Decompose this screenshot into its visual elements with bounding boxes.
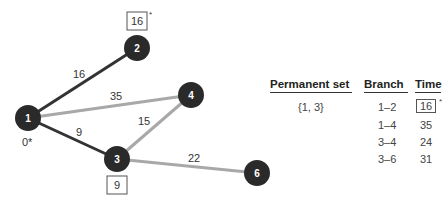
row-2-branch: 1–4	[378, 119, 396, 131]
edge-1-2	[28, 48, 137, 118]
edge-1-3	[28, 118, 117, 159]
weight-3-4: 15	[138, 115, 150, 127]
node-3-time: 9	[114, 179, 120, 191]
node-1: 1	[15, 105, 41, 131]
header-time: Time	[415, 78, 441, 93]
node-2-label: 2	[134, 43, 140, 54]
edge-3-6	[117, 159, 257, 173]
weight-1-4: 35	[110, 90, 122, 102]
weight-1-2: 16	[73, 68, 85, 80]
row-3-branch: 3–4	[378, 136, 396, 148]
weight-3-6: 22	[188, 152, 200, 164]
row-4-branch: 3–6	[378, 153, 396, 165]
header-branch: Branch	[364, 78, 408, 93]
node-4: 4	[178, 82, 204, 108]
weight-1-3: 9	[76, 126, 82, 138]
node-2-time: 16	[131, 15, 143, 27]
node-4-label: 4	[188, 90, 194, 101]
row-4-time: 31	[420, 153, 432, 165]
node-3-label: 3	[114, 154, 120, 165]
node-1-time: 0*	[22, 136, 33, 148]
row-2-time: 35	[420, 119, 432, 131]
row-3-time: 24	[420, 136, 432, 148]
node-6-label: 6	[254, 168, 260, 179]
node-2: 2	[124, 35, 150, 61]
node-2-star: *	[149, 10, 152, 19]
header-permanent-set: Permanent set	[270, 78, 352, 93]
node-6: 6	[244, 160, 270, 186]
permanent-set-value: {1, 3}	[298, 101, 324, 113]
network-diagram: 16 35 9 15 22 1 2 3 4 6 16 * 0* 9	[0, 0, 270, 208]
row-1-branch: 1–2	[378, 101, 396, 113]
row-1-star: *	[439, 97, 442, 106]
row-1-time: 16	[416, 99, 436, 113]
node-3: 3	[104, 146, 130, 172]
node-1-label: 1	[25, 113, 31, 124]
